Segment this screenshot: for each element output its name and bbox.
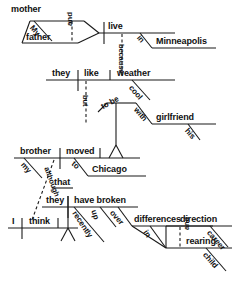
word-that: that xyxy=(54,178,70,187)
sentence-diagram: mother My and father live in Minneapolis… xyxy=(0,0,233,285)
word-and-2: and xyxy=(183,217,191,230)
word-minneapolis: Minneapolis xyxy=(156,37,207,46)
word-and-1: and xyxy=(66,12,74,26)
word-weather: weather xyxy=(117,69,150,78)
word-rearing: rearing xyxy=(186,237,216,246)
bracket-lower-right xyxy=(78,33,99,43)
word-moved: moved xyxy=(66,147,95,156)
word-up: up xyxy=(89,209,100,221)
pedestal-tri-right-2 xyxy=(68,228,75,241)
word-i: I xyxy=(12,217,14,226)
bracket-upper-right xyxy=(84,21,99,33)
word-girlfriend: girlfriend xyxy=(156,113,194,122)
word-father: father xyxy=(26,33,50,42)
prep-slant-in-2 xyxy=(150,226,166,248)
word-live: live xyxy=(108,22,123,31)
word-they-2: they xyxy=(46,196,64,205)
word-like: like xyxy=(84,69,99,78)
pedestal-tri-left-2 xyxy=(61,228,68,241)
word-chicago: Chicago xyxy=(92,165,127,174)
word-brother: brother xyxy=(20,147,51,156)
pedestal-tri-left xyxy=(109,145,116,158)
pedestal-tri-right xyxy=(116,145,123,158)
word-they-1: they xyxy=(52,69,70,78)
word-but: but xyxy=(82,95,90,106)
word-think: think xyxy=(29,217,50,226)
word-have-broken: have broken xyxy=(74,196,126,205)
word-differences: differences xyxy=(134,215,181,224)
word-mother: mother xyxy=(11,5,41,14)
